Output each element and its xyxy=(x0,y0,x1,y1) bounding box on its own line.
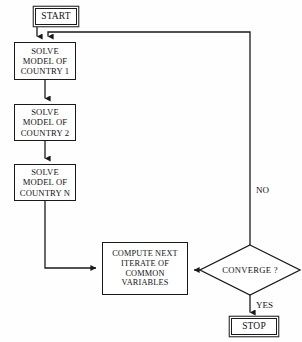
node-start[interactable]: START xyxy=(35,8,77,25)
edge-feedback-loop xyxy=(48,32,250,245)
node-converge-decision[interactable]: CONVERGE ? xyxy=(200,245,300,295)
node-solve-country-1[interactable]: SOLVE MODEL OF COUNTRY 1 xyxy=(14,42,76,80)
edge-label-no: NO xyxy=(256,185,269,195)
node-solve-country-n[interactable]: SOLVE MODEL OF COUNTRY N xyxy=(14,164,76,201)
node-solve-country-1-line-3: COUNTRY 1 xyxy=(21,66,70,76)
node-compute-line-4: VARIABLES xyxy=(122,278,169,288)
node-compute-next-iterate[interactable]: COMPUTE NEXT ITERATE OF COMMON VARIABLES xyxy=(102,242,188,295)
node-solve-country-2-line-2: MODEL OF xyxy=(23,117,68,127)
node-converge-label: CONVERGE ? xyxy=(200,245,300,295)
node-stop-label: STOP xyxy=(242,321,266,332)
flowchart-canvas: START SOLVE MODEL OF COUNTRY 1 SOLVE MOD… xyxy=(0,0,302,342)
node-solve-country-n-line-2: MODEL OF xyxy=(23,177,68,187)
node-solve-country-2-line-3: COUNTRY 2 xyxy=(21,128,70,138)
edge-label-yes: YES xyxy=(256,300,273,310)
node-compute-line-1: COMPUTE NEXT xyxy=(112,249,178,259)
edge-solveN-to-compute xyxy=(45,201,96,268)
node-solve-country-2[interactable]: SOLVE MODEL OF COUNTRY 2 xyxy=(14,104,76,141)
node-start-label: START xyxy=(41,11,71,22)
node-solve-country-1-line-1: SOLVE xyxy=(31,46,59,56)
node-compute-line-3: COMMON xyxy=(125,269,164,279)
node-solve-country-2-line-1: SOLVE xyxy=(31,107,59,117)
node-compute-line-2: ITERATE OF xyxy=(121,259,169,269)
node-stop[interactable]: STOP xyxy=(231,318,277,335)
node-solve-country-n-line-3: COUNTRY N xyxy=(20,188,70,198)
node-solve-country-n-line-1: SOLVE xyxy=(31,167,59,177)
node-solve-country-1-line-2: MODEL OF xyxy=(23,56,68,66)
